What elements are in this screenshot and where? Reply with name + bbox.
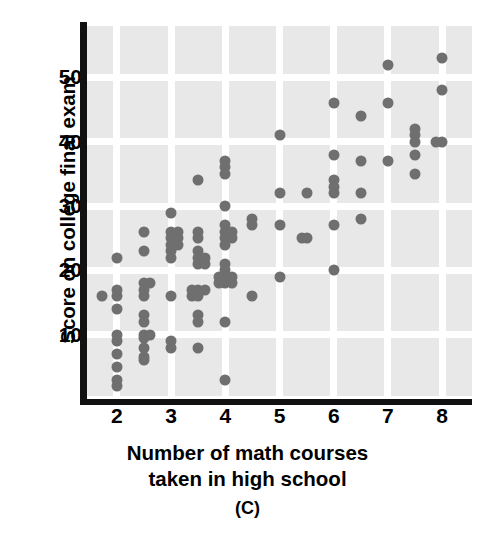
data-point	[274, 130, 285, 141]
x-axis-tick-labels: 2345678	[0, 404, 495, 438]
data-point	[301, 188, 312, 199]
data-point	[193, 342, 204, 353]
data-point	[172, 239, 183, 250]
data-point	[410, 149, 421, 160]
data-point	[145, 329, 156, 340]
x-tick-label: 2	[97, 404, 137, 428]
data-point	[328, 98, 339, 109]
data-point	[111, 381, 122, 392]
data-point	[382, 156, 393, 167]
data-point	[220, 316, 231, 327]
data-point	[382, 98, 393, 109]
x-axis-title-line2: taken in high school	[0, 466, 495, 492]
data-point	[145, 278, 156, 289]
x-tick-label: 5	[260, 404, 300, 428]
data-point	[138, 316, 149, 327]
data-point	[328, 188, 339, 199]
x-tick-label: 4	[205, 404, 245, 428]
data-point	[220, 201, 231, 212]
data-point	[193, 316, 204, 327]
data-point	[138, 246, 149, 257]
data-point	[220, 168, 231, 179]
x-tick-label: 3	[151, 404, 191, 428]
data-point	[220, 374, 231, 385]
data-point	[111, 291, 122, 302]
x-tick-label: 6	[314, 404, 354, 428]
data-point	[274, 271, 285, 282]
data-point	[138, 291, 149, 302]
vertical-gridline	[276, 26, 283, 399]
data-point	[96, 291, 107, 302]
data-point	[437, 85, 448, 96]
data-point	[226, 233, 237, 244]
data-point	[297, 233, 308, 244]
data-point	[166, 291, 177, 302]
y-tick-label: 30	[40, 194, 82, 218]
data-point	[247, 291, 258, 302]
x-tick-label: 8	[422, 404, 462, 428]
data-point	[138, 355, 149, 366]
data-point	[328, 149, 339, 160]
data-point	[193, 233, 204, 244]
data-point	[247, 220, 258, 231]
plot-area	[87, 26, 472, 399]
data-point	[410, 136, 421, 147]
data-point	[138, 226, 149, 237]
vertical-gridline	[384, 26, 391, 399]
y-tick-label: 40	[40, 130, 82, 154]
panel-caption: (C)	[0, 498, 495, 519]
y-tick-label: 10	[40, 323, 82, 347]
y-tick-label: 50	[40, 65, 82, 89]
data-point	[437, 53, 448, 64]
data-point	[199, 258, 210, 269]
data-point	[186, 291, 197, 302]
horizontal-gridline	[87, 203, 472, 210]
data-point	[166, 207, 177, 218]
data-point	[328, 265, 339, 276]
data-point	[111, 348, 122, 359]
data-point	[166, 252, 177, 263]
scatter-plot-figure: Score on college final exam 1020304050 2…	[0, 0, 495, 534]
x-axis-title: Number of math courses taken in high sch…	[0, 440, 495, 492]
data-point	[226, 278, 237, 289]
vertical-gridline	[330, 26, 337, 399]
vertical-gridline	[222, 26, 229, 399]
data-point	[355, 111, 366, 122]
data-point	[199, 284, 210, 295]
data-point	[111, 361, 122, 372]
data-point	[111, 252, 122, 263]
data-point	[166, 342, 177, 353]
horizontal-gridline	[87, 74, 472, 81]
data-point	[111, 303, 122, 314]
data-point	[355, 188, 366, 199]
horizontal-gridline	[87, 396, 472, 400]
y-tick-label: 20	[40, 258, 82, 282]
data-point	[111, 336, 122, 347]
x-tick-label: 7	[368, 404, 408, 428]
data-point	[328, 220, 339, 231]
vertical-gridline	[439, 26, 446, 399]
data-point	[410, 168, 421, 179]
y-axis-line	[80, 22, 87, 405]
x-axis-title-line1: Number of math courses	[127, 441, 369, 464]
data-point	[274, 188, 285, 199]
data-point	[213, 278, 224, 289]
data-point	[355, 213, 366, 224]
data-point	[193, 175, 204, 186]
data-point	[355, 156, 366, 167]
data-point	[274, 220, 285, 231]
data-point	[430, 136, 441, 147]
data-point	[382, 59, 393, 70]
